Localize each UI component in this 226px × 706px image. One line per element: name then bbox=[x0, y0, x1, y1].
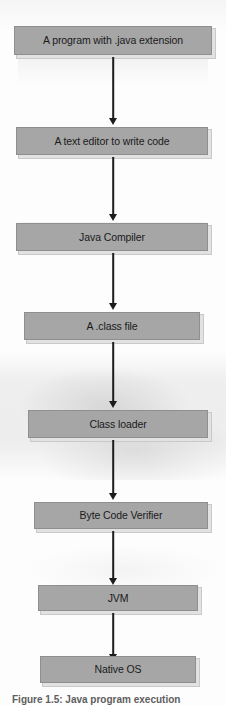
figure-caption: Figure 1.5: Java program execution bbox=[12, 694, 218, 705]
flow-node-classloader: Class loader bbox=[28, 410, 208, 438]
flow-node-source-label: A program with .java extension bbox=[43, 35, 183, 46]
flow-node-editor-label: A text editor to write code bbox=[54, 135, 169, 146]
flow-node-editor: A text editor to write code bbox=[16, 127, 208, 155]
flow-node-verifier-label: Byte Code Verifier bbox=[80, 510, 163, 521]
flow-node-classloader-label: Class loader bbox=[89, 418, 146, 429]
scan-smudge-ghost-upper bbox=[18, 56, 208, 90]
flow-node-source: A program with .java extension bbox=[14, 26, 212, 55]
flow-node-classfile: A .class file bbox=[24, 312, 200, 340]
flow-node-nativeos: Native OS bbox=[40, 656, 196, 683]
flow-node-classfile-label: A .class file bbox=[86, 320, 137, 331]
flow-node-jvm-label: JVM bbox=[108, 592, 129, 603]
flow-node-nativeos-label: Native OS bbox=[95, 664, 142, 675]
flow-node-jvm: JVM bbox=[38, 585, 198, 611]
flow-node-compiler-label: Java Compiler bbox=[79, 231, 145, 242]
figure-page: A program with .java extension A text ed… bbox=[0, 0, 226, 706]
flow-node-verifier: Byte Code Verifier bbox=[34, 502, 208, 529]
flow-node-compiler: Java Compiler bbox=[16, 223, 208, 251]
